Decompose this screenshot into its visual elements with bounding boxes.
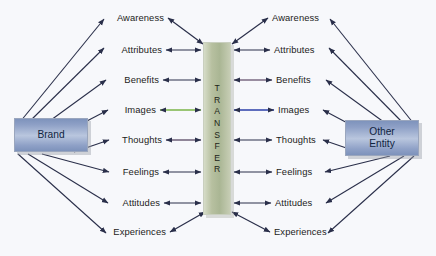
left-label-awareness: Awareness [60,12,164,23]
right-label-attributes: Attributes [274,44,376,55]
left-label-attributes: Attributes [60,44,162,55]
row-awareness-connectors [168,18,268,44]
left-label-experiences: Experiences [56,226,166,237]
right-label-benefits: Benefits [276,74,375,85]
right-label-awareness: Awareness [272,12,376,23]
left-label-benefits: Benefits [60,74,159,85]
brand-node[interactable]: Brand [14,118,88,152]
other-entity-node-label-line2: Entity [369,138,394,150]
right-label-attitudes: Attitudes [275,197,375,208]
right-label-feelings: Feelings [276,166,375,177]
other-entity-node[interactable]: Other Entity [345,120,419,156]
right-label-images: Images [278,104,374,115]
transfer-node[interactable] [203,42,231,215]
other-entity-node-label-wrap: Other Entity [369,126,394,150]
right-label-experiences: Experiences [274,226,384,237]
brand-node-label: Brand [37,129,64,141]
left-label-feelings: Feelings [60,166,159,177]
left-label-attitudes: Attitudes [60,197,160,208]
row-experiences-connectors [170,212,270,232]
left-label-images: Images [60,104,156,115]
diagram-canvas: Awareness Attributes Benefits Images Tho… [0,0,436,256]
other-entity-node-label-line1: Other [369,126,394,138]
